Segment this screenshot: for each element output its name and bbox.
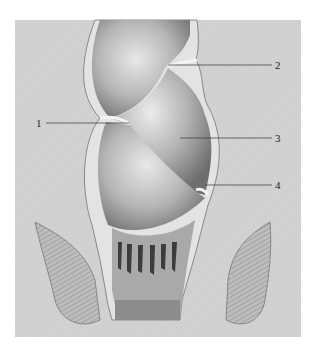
label-2: 2 xyxy=(275,60,281,71)
label-4: 4 xyxy=(275,180,281,191)
rectum-anal-canal-illustration xyxy=(0,0,313,350)
levator-ani-left xyxy=(35,222,100,324)
levator-ani-right xyxy=(226,222,271,324)
anal-canal-lower-shade xyxy=(115,300,180,320)
label-3: 3 xyxy=(275,133,281,144)
label-1: 1 xyxy=(36,118,42,129)
